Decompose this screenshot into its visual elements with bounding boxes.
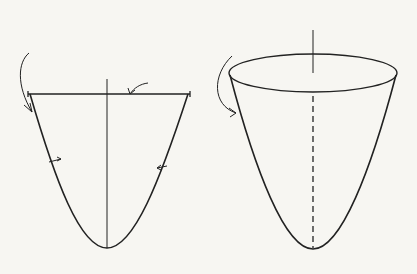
figure-62 (0, 0, 417, 274)
left-parabola-curve (30, 94, 188, 248)
diagram-drawing (0, 0, 417, 274)
